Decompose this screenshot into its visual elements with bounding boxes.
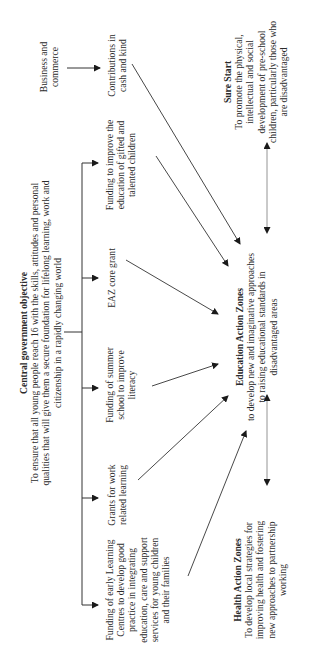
sure-start-text: To promote the physical, intellectual an… <box>233 16 289 148</box>
arrow-work-to-eaz <box>138 396 228 480</box>
eaz-text: to develop new and imaginative approache… <box>245 249 279 425</box>
business-node: Business and commerce <box>38 36 60 98</box>
funding-gifted-text: Funding to improve the education of gift… <box>104 114 138 216</box>
rotated-diagram: Central government objective To ensure t… <box>0 0 317 668</box>
eaz-node: Education Action Zones to develop new an… <box>234 249 279 425</box>
funding-summer-text: Funding of summer school to improve lite… <box>104 342 138 428</box>
arrow-summer-to-eaz <box>152 364 218 386</box>
contributions-node: Contributions in cash and kind <box>106 28 128 103</box>
haz-text: To develop local strategies for improvin… <box>243 516 288 644</box>
eaz-title: Education Action Zones <box>234 249 245 425</box>
arrow-eazcore-to-eaz <box>126 260 218 314</box>
central-objective-node: Central government objective To ensure t… <box>18 178 63 488</box>
contributions-text: Contributions in cash and kind <box>106 28 128 103</box>
funding-early-text: Funding of early Learning Centres to dev… <box>104 536 171 644</box>
haz-node: Health Action Zones To develop local str… <box>232 516 288 644</box>
business-text: Business and commerce <box>38 36 60 98</box>
funding-work-node: Grants for work related learning <box>106 456 128 534</box>
funding-early-node: Funding of early Learning Centres to dev… <box>104 536 171 644</box>
funding-eaz-core-node: EAZ core grant <box>106 243 117 313</box>
funding-summer-node: Funding of summer school to improve lite… <box>104 342 138 428</box>
sure-start-node: Sure Start To promote the physical, inte… <box>222 16 289 148</box>
central-objective-title: Central government objective <box>18 178 29 488</box>
funding-work-text: Grants for work related learning <box>106 456 128 534</box>
haz-title: Health Action Zones <box>232 516 243 644</box>
funding-eaz-core-text: EAZ core grant <box>106 243 117 313</box>
sure-start-title: Sure Start <box>222 16 233 148</box>
funding-gifted-node: Funding to improve the education of gift… <box>104 114 138 216</box>
arrow-gifted-to-eaz <box>156 156 228 266</box>
central-objective-text: To ensure that all young people reach 16… <box>29 178 63 488</box>
